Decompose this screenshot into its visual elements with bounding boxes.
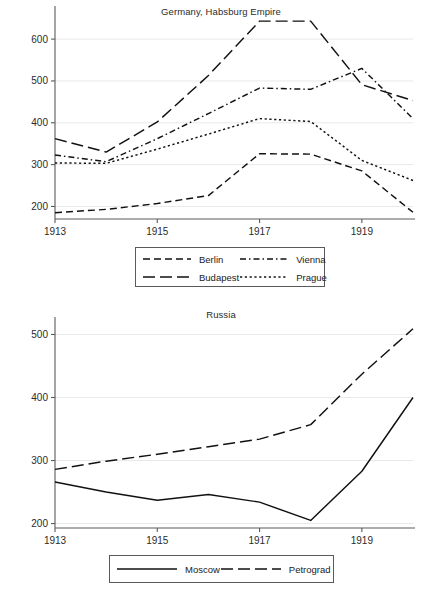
- y-tick-label: 300: [31, 159, 48, 170]
- chart-svg-russia: 2003004005001913191519171919: [0, 300, 442, 550]
- y-tick-label: 500: [31, 75, 48, 86]
- series-line-budapest: [55, 21, 413, 152]
- x-tick-label: 1915: [146, 535, 169, 546]
- legend-swatch-petrograd: [220, 564, 282, 574]
- legend-swatch-prague: [239, 272, 289, 282]
- series-line-prague: [55, 119, 413, 181]
- x-tick-label: 1913: [44, 535, 67, 546]
- x-tick-label: 1919: [351, 226, 374, 237]
- y-tick-label: 600: [31, 34, 48, 45]
- y-tick-label: 400: [31, 392, 48, 403]
- legend-entry: Prague: [239, 268, 327, 286]
- legend-germany: BerlinViennaBudapestPrague: [135, 247, 325, 287]
- legend-label: Petrograd: [289, 564, 331, 575]
- legend-swatch-moscow: [116, 564, 178, 574]
- chart-panel-russia: Russia 2003004005001913191519171919 Mosc…: [0, 300, 442, 599]
- legend-entry: Moscow: [116, 560, 220, 578]
- legend-swatch-budapest: [142, 272, 192, 282]
- y-tick-label: 300: [31, 455, 48, 466]
- legend-label: Vienna: [296, 254, 325, 265]
- plot-area-germany: 2003004005006001913191519171919: [0, 0, 442, 240]
- legend-label: Budapest: [199, 272, 239, 283]
- legend-entry: Petrograd: [220, 560, 331, 578]
- legend-label: Prague: [296, 272, 327, 283]
- series-line-moscow: [55, 398, 413, 521]
- y-tick-label: 200: [31, 201, 48, 212]
- plot-area-russia: 2003004005001913191519171919: [0, 300, 442, 550]
- x-tick-label: 1913: [44, 226, 67, 237]
- legend-entry: Budapest: [142, 268, 239, 286]
- chart-panel-germany: Germany, Habsburg Empire 200300400500600…: [0, 0, 442, 300]
- y-tick-label: 400: [31, 117, 48, 128]
- y-tick-label: 200: [31, 518, 48, 529]
- legend-label: Moscow: [185, 564, 220, 575]
- legend-entry: Berlin: [142, 250, 239, 268]
- legend-swatch-berlin: [142, 254, 192, 264]
- legend-label: Berlin: [199, 254, 223, 265]
- legend-swatch-vienna: [239, 254, 289, 264]
- x-tick-label: 1915: [146, 226, 169, 237]
- legend-russia: MoscowPetrograd: [109, 555, 334, 583]
- x-tick-label: 1917: [248, 535, 271, 546]
- series-line-petrograd: [55, 329, 413, 470]
- legend-entry: Vienna: [239, 250, 327, 268]
- x-tick-label: 1917: [248, 226, 271, 237]
- y-tick-label: 500: [31, 329, 48, 340]
- x-tick-label: 1919: [351, 535, 374, 546]
- chart-svg-germany: 2003004005006001913191519171919: [0, 0, 442, 240]
